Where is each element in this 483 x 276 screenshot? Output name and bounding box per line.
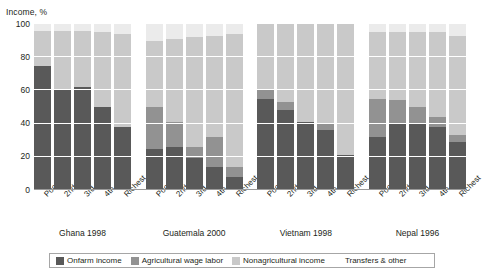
quintile-label: 3rd	[297, 192, 314, 226]
bar-segment	[54, 89, 71, 190]
quintile-label-group: Poorest2nd3rd4thRichest	[257, 192, 354, 226]
bar-segment	[166, 122, 183, 147]
bar-segment	[429, 24, 446, 32]
quintile-label: Poorest	[34, 192, 51, 226]
y-axis-tick-label: 0	[25, 186, 30, 195]
bar-segment	[226, 177, 243, 190]
quintile-label: 2nd	[389, 192, 406, 226]
stacked-bar[interactable]	[449, 24, 466, 190]
bar-segment	[94, 32, 111, 107]
bar-segment	[74, 24, 91, 31]
y-axis-tick-label: 80	[21, 53, 30, 62]
bar-segment	[429, 32, 446, 117]
legend-label: Nonagricultural income	[243, 257, 325, 265]
bar-segment	[206, 167, 223, 190]
stacked-bar[interactable]	[257, 24, 274, 190]
bar-segment	[297, 122, 314, 190]
bar-segment	[409, 24, 426, 32]
bar-segment	[54, 31, 71, 89]
stacked-bar[interactable]	[54, 24, 71, 190]
stacked-bar[interactable]	[369, 24, 386, 190]
stacked-bar[interactable]	[146, 24, 163, 190]
bar-segment	[146, 41, 163, 107]
quintile-label: 2nd	[166, 192, 183, 226]
legend-label: Transfers & other	[345, 257, 407, 265]
bar-segment	[277, 24, 294, 102]
bar-segment	[186, 158, 203, 190]
group-caption: Vietnam 1998	[257, 228, 354, 240]
bar-segment	[429, 117, 446, 127]
bar-segment	[94, 107, 111, 190]
bar-segment	[257, 24, 274, 89]
bar-segment	[226, 34, 243, 167]
y-axis-tick-label: 60	[21, 86, 30, 95]
bar-segment	[94, 24, 111, 32]
quintile-label: 4th	[317, 192, 334, 226]
bar-segment	[146, 107, 163, 149]
legend-label: Onfarm income	[67, 257, 122, 265]
bar-segment	[146, 149, 163, 191]
stacked-bar[interactable]	[206, 24, 223, 190]
bar-segment	[409, 107, 426, 124]
stacked-bar[interactable]	[317, 24, 334, 190]
x-axis-group-captions: Ghana 1998Guatemala 2000Vietnam 1998Nepa…	[34, 228, 466, 240]
bar-segment	[389, 24, 406, 32]
y-axis-title: Income, %	[6, 7, 47, 17]
quintile-label: Richest	[449, 192, 466, 226]
stacked-bar[interactable]	[166, 24, 183, 190]
quintile-label: Richest	[226, 192, 243, 226]
quintile-label: 2nd	[54, 192, 71, 226]
stacked-bar[interactable]	[297, 24, 314, 190]
quintile-label: 4th	[94, 192, 111, 226]
stacked-bar[interactable]	[389, 24, 406, 190]
y-axis-tick-label: 100	[16, 20, 30, 29]
bar-segment	[389, 32, 406, 100]
bar-groups	[34, 24, 466, 190]
quintile-label: Poorest	[257, 192, 274, 226]
quintile-label-group: Poorest2nd3rd4thRichest	[34, 192, 131, 226]
stacked-bar[interactable]	[277, 24, 294, 190]
legend-item[interactable]: Onfarm income	[56, 257, 122, 265]
bar-segment	[34, 24, 51, 31]
bar-segment	[317, 130, 334, 190]
group-caption: Ghana 1998	[34, 228, 131, 240]
stacked-bar[interactable]	[34, 24, 51, 190]
bar-segment	[277, 102, 294, 110]
legend-item[interactable]: Nonagricultural income	[232, 257, 325, 265]
bar-segment	[409, 32, 426, 107]
stacked-bar[interactable]	[337, 24, 354, 190]
quintile-label: 3rd	[74, 192, 91, 226]
legend-swatch-icon	[232, 257, 240, 265]
legend-label: Agricultural wage labor	[142, 257, 223, 265]
legend-item[interactable]: Transfers & other	[334, 257, 407, 265]
quintile-label: Poorest	[369, 192, 386, 226]
quintile-label: 4th	[429, 192, 446, 226]
bar-segment	[226, 24, 243, 34]
stacked-bar[interactable]	[114, 24, 131, 190]
stacked-bar[interactable]	[94, 24, 111, 190]
stacked-bar[interactable]	[186, 24, 203, 190]
stacked-bar[interactable]	[74, 24, 91, 190]
quintile-label: 2nd	[277, 192, 294, 226]
y-axis-tick-label: 40	[21, 119, 30, 128]
stacked-bar[interactable]	[429, 24, 446, 190]
quintile-label: Poorest	[146, 192, 163, 226]
bar-segment	[389, 124, 406, 190]
bar-segment	[449, 24, 466, 36]
bar-segment	[114, 24, 131, 34]
bar-segment	[389, 100, 406, 123]
bar-group	[257, 24, 354, 190]
chart-legend: Onfarm incomeAgricultural wage laborNona…	[49, 253, 435, 268]
legend-item[interactable]: Agricultural wage labor	[131, 257, 223, 265]
bar-segment	[114, 127, 131, 190]
bar-segment	[337, 24, 354, 155]
bar-segment	[146, 24, 163, 41]
bar-segment	[429, 127, 446, 190]
bar-segment	[449, 135, 466, 142]
stacked-bar[interactable]	[226, 24, 243, 190]
bar-segment	[166, 24, 183, 39]
group-caption: Nepal 1996	[369, 228, 466, 240]
stacked-bar[interactable]	[409, 24, 426, 190]
quintile-label: Richest	[114, 192, 131, 226]
